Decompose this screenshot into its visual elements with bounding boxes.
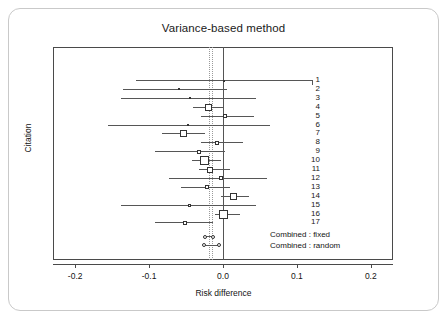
- study-row: [53, 151, 393, 152]
- confidence-interval-line: [201, 142, 243, 143]
- x-tick-label: -0.2: [55, 271, 95, 281]
- study-label-9: 9: [302, 147, 320, 155]
- forest-plot-screenshot: Variance-based method -0.2-0.10.00.10.2 …: [0, 0, 447, 319]
- x-tick-label: 0.2: [351, 271, 391, 281]
- study-row: [53, 178, 393, 179]
- study-label-11: 11: [302, 165, 320, 173]
- plot-area: [53, 47, 393, 260]
- effect-estimate-marker: [219, 176, 223, 180]
- study-row: [53, 107, 393, 108]
- effect-estimate-marker: [223, 80, 225, 82]
- effect-estimate-marker: [187, 124, 189, 126]
- legend-combined-random: Combined : random: [270, 241, 340, 251]
- study-label-5: 5: [302, 112, 320, 120]
- combined-bound-marker-upper: [217, 243, 221, 247]
- study-label-3: 3: [302, 94, 320, 102]
- x-tick: [149, 264, 150, 268]
- study-row: [53, 125, 393, 126]
- confidence-interval-line: [201, 116, 254, 117]
- study-row: [53, 89, 393, 90]
- study-label-17: 17: [302, 218, 320, 226]
- study-label-2: 2: [302, 85, 320, 93]
- legend-combined-fixed: Combined : fixed: [270, 230, 330, 240]
- study-row: [53, 187, 393, 188]
- study-row: [53, 214, 393, 215]
- x-tick: [75, 264, 76, 268]
- page-title: Variance-based method: [0, 22, 447, 34]
- study-label-13: 13: [302, 183, 320, 191]
- study-label-1: 1: [302, 76, 320, 84]
- y-axis-title: Citation: [23, 108, 33, 168]
- effect-estimate-marker: [197, 150, 201, 154]
- study-row: [53, 142, 393, 143]
- x-axis-title: Risk difference: [0, 288, 447, 298]
- combined-bound-marker-upper: [211, 235, 215, 239]
- effect-estimate-marker: [207, 167, 213, 173]
- study-row: [53, 169, 393, 170]
- confidence-interval-line: [123, 89, 226, 90]
- effect-estimate-marker: [205, 185, 209, 189]
- study-row: [53, 80, 393, 81]
- effect-estimate-marker: [215, 141, 219, 145]
- zero-reference-line: [223, 47, 224, 260]
- confidence-interval-line: [108, 125, 269, 126]
- study-label-15: 15: [302, 201, 320, 209]
- x-tick-label: 0.1: [277, 271, 317, 281]
- study-label-10: 10: [302, 156, 320, 164]
- effect-estimate-marker: [178, 88, 180, 90]
- study-label-14: 14: [302, 192, 320, 200]
- study-row: [53, 98, 393, 99]
- combined-row: [53, 236, 393, 237]
- study-label-16: 16: [302, 210, 320, 218]
- combined-bound-marker-lower: [202, 243, 206, 247]
- combined-row: [53, 245, 393, 246]
- pooled-reference-line-random: [212, 47, 213, 260]
- x-tick-label: 0.0: [203, 271, 243, 281]
- study-row: [53, 205, 393, 206]
- combined-bound-marker-lower: [203, 235, 207, 239]
- confidence-interval-line: [155, 151, 225, 152]
- effect-estimate-marker: [230, 193, 237, 200]
- study-row: [53, 116, 393, 117]
- effect-estimate-marker: [183, 221, 187, 225]
- x-tick: [223, 264, 224, 268]
- study-label-6: 6: [302, 121, 320, 129]
- effect-estimate-marker: [189, 97, 191, 99]
- study-label-12: 12: [302, 174, 320, 182]
- effect-estimate-marker: [180, 130, 187, 137]
- effect-estimate-marker: [200, 156, 209, 165]
- x-tick-label: -0.1: [129, 271, 169, 281]
- x-tick: [297, 264, 298, 268]
- effect-estimate-marker: [205, 104, 212, 111]
- study-label-4: 4: [302, 103, 320, 111]
- x-tick: [371, 264, 372, 268]
- study-row: [53, 160, 393, 161]
- pooled-reference-line-fixed: [209, 47, 210, 260]
- study-label-8: 8: [302, 138, 320, 146]
- confidence-interval-line: [199, 169, 230, 170]
- effect-estimate-marker: [223, 114, 227, 118]
- study-row: [53, 133, 393, 134]
- study-label-7: 7: [302, 129, 320, 137]
- study-row: [53, 196, 393, 197]
- effect-estimate-marker: [219, 210, 228, 219]
- effect-estimate-marker: [188, 204, 191, 207]
- study-row: [53, 222, 393, 223]
